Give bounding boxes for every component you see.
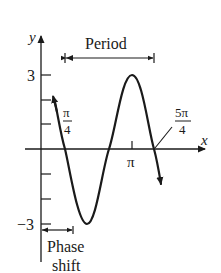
pi-over-4-numerator: π <box>63 105 70 120</box>
y-tick-label-neg3: −3 <box>17 216 34 233</box>
five-pi-over-4-leader <box>155 127 172 148</box>
y-axis-label: y <box>27 29 36 45</box>
period-label: Period <box>85 35 127 52</box>
period-left-arrowhead <box>66 55 73 61</box>
y-tick-label-3: 3 <box>27 67 35 84</box>
five-pi-over-4-numerator: 5π <box>175 105 189 120</box>
x-tick-label-pi: π <box>127 154 135 170</box>
phase-label: Phase <box>47 238 84 255</box>
period-bracket <box>65 53 154 63</box>
sine-graph: y x 3 −3 π π 4 5π 4 Period Phase shift <box>0 0 221 273</box>
x-axis-label: x <box>200 132 208 148</box>
pi-over-4-denominator: 4 <box>64 122 71 137</box>
five-pi-over-4-denominator: 4 <box>179 122 186 137</box>
shift-label: shift <box>52 257 81 273</box>
phase-left-arrowhead <box>42 228 48 233</box>
